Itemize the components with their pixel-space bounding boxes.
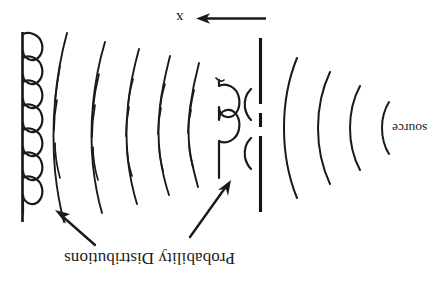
probability-distributions-caption: Probability Distributions xyxy=(64,248,235,268)
slit-emission-arcs xyxy=(245,89,251,169)
pointer-to-near-slit-distribution xyxy=(190,180,231,237)
source-label: source xyxy=(392,120,427,136)
interference-wavefronts xyxy=(54,33,200,222)
x-axis-arrow xyxy=(196,13,266,24)
near-slit-probability-lobes xyxy=(216,78,239,178)
incoming-spherical-wavefronts xyxy=(284,58,389,198)
x-axis-label: x xyxy=(176,9,184,26)
double-slit-figure: x source Probability Distributions xyxy=(0,0,445,288)
pointer-to-screen-distribution xyxy=(55,210,95,245)
screen-probability-distribution xyxy=(23,32,45,214)
